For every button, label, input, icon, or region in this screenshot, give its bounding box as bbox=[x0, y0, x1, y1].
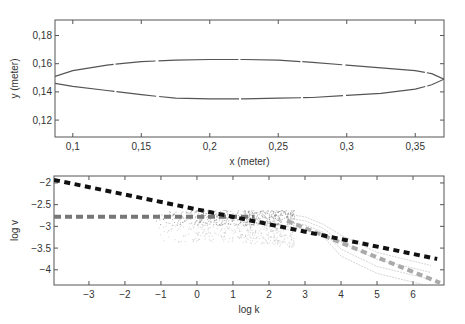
x-tick-label: 0,25 bbox=[269, 141, 289, 152]
x-tick-label: 0 bbox=[194, 289, 200, 300]
x-tick-label: −2 bbox=[119, 289, 131, 300]
y-tick-label: −2.5 bbox=[31, 199, 51, 210]
y-tick-label: −4 bbox=[40, 264, 52, 275]
x-tick-label: 0,2 bbox=[203, 141, 217, 152]
x-tick-label: 0,3 bbox=[340, 141, 354, 152]
axes-frame bbox=[55, 20, 444, 137]
trailing-curve bbox=[287, 226, 431, 286]
x-axis-label: log k bbox=[238, 304, 260, 315]
x-tick-label: 1 bbox=[230, 289, 236, 300]
y-tick-label: 0,16 bbox=[33, 58, 53, 69]
x-tick-label: 4 bbox=[338, 289, 344, 300]
y-tick-label: 0,14 bbox=[33, 86, 53, 97]
y-tick-label: −3.5 bbox=[31, 243, 51, 254]
y-tick-label: 0,18 bbox=[33, 30, 53, 41]
y-tick-label: −3 bbox=[40, 221, 52, 232]
black-dashed-line bbox=[54, 180, 437, 259]
x-axis-label: x (meter) bbox=[230, 156, 270, 167]
light-gray-dashed-line bbox=[287, 221, 440, 283]
x-tick-label: 0,1 bbox=[66, 141, 80, 152]
x-tick-label: 0,15 bbox=[132, 141, 152, 152]
x-tick-label: 2 bbox=[266, 289, 272, 300]
x-tick-label: 5 bbox=[374, 289, 380, 300]
x-tick-label: 0,35 bbox=[406, 141, 426, 152]
x-tick-label: 3 bbox=[302, 289, 308, 300]
y-tick-label: 0,12 bbox=[33, 115, 53, 126]
y-axis-label: log v bbox=[9, 220, 20, 241]
log-log-plot: −3−2−10123456−2−2.5−3−3.5−4log klog v bbox=[9, 176, 444, 315]
contour-plot: 0,10,150,20,250,30,350,120,140,160,18x (… bbox=[9, 20, 444, 167]
x-tick-label: 6 bbox=[410, 289, 416, 300]
x-tick-label: −1 bbox=[155, 289, 167, 300]
y-axis-label: y (meter) bbox=[9, 59, 20, 99]
contour-line bbox=[55, 60, 444, 80]
x-tick-label: −3 bbox=[83, 289, 95, 300]
y-tick-label: −2 bbox=[40, 177, 52, 188]
contour-line bbox=[55, 79, 444, 99]
figure: 0,10,150,20,250,30,350,120,140,160,18x (… bbox=[0, 0, 465, 324]
